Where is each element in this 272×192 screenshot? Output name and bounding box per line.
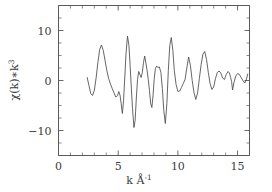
x-ticklabel: 10 bbox=[171, 160, 185, 173]
svg-text:χ(k)∗k3: χ(k)∗k3 bbox=[7, 59, 21, 100]
y-title-exponent: 3 bbox=[7, 59, 16, 64]
x-ticklabel: 5 bbox=[115, 160, 122, 173]
x-axis-title: k Å-1 bbox=[126, 173, 151, 187]
y-axis-title: χ(k)∗k3 bbox=[7, 59, 21, 100]
chi-k3-curve bbox=[87, 36, 248, 128]
data-series-group bbox=[87, 36, 248, 128]
plot-canvas: 051015 100−10 k Å-1 χ(k)∗k3 bbox=[0, 0, 272, 192]
x-axis-ticklabels: 051015 bbox=[55, 160, 245, 173]
y-ticklabel: 10 bbox=[38, 25, 52, 38]
svg-text:k Å-1: k Å-1 bbox=[126, 173, 151, 187]
y-ticklabel: 0 bbox=[45, 75, 52, 88]
y-axis-ticklabels: 100−10 bbox=[28, 25, 51, 138]
x-title-exponent: -1 bbox=[144, 173, 151, 182]
y-title-symbol: χ(k)∗k bbox=[8, 64, 21, 100]
y-ticklabel: −10 bbox=[28, 125, 51, 138]
exafs-plot-figure: 051015 100−10 k Å-1 χ(k)∗k3 bbox=[0, 0, 272, 192]
x-ticklabel: 0 bbox=[55, 160, 62, 173]
x-ticklabel: 15 bbox=[231, 160, 245, 173]
